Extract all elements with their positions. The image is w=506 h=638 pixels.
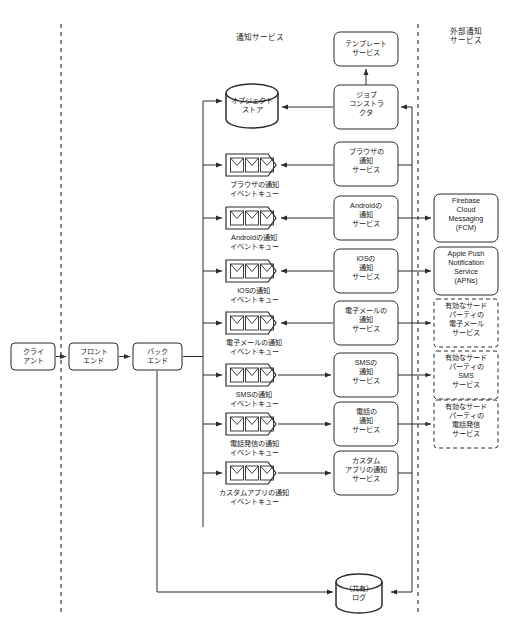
envelope-icon [231, 211, 244, 225]
node-object-store [226, 84, 278, 128]
node-backend [133, 343, 182, 370]
node-client [11, 343, 55, 370]
node-service-sms [334, 353, 398, 397]
envelope-icon [246, 466, 259, 480]
envelope-icon [231, 158, 244, 172]
envelope-icon [246, 264, 259, 278]
envelope-icon [246, 316, 259, 330]
node-shared-log [336, 574, 382, 613]
envelope-icon [231, 316, 244, 330]
node-service-ios [334, 249, 398, 293]
node-service-android [334, 196, 398, 240]
envelope-icon [261, 417, 274, 431]
node-external-email [434, 299, 498, 347]
envelope-icon [261, 466, 274, 480]
node-service-browser [334, 142, 398, 186]
node-external-apns [434, 247, 498, 295]
node-external-fcm [434, 194, 498, 242]
node-template-service [334, 32, 398, 66]
envelope-icon [261, 264, 274, 278]
envelope-icon [246, 158, 259, 172]
envelope-icon [261, 368, 274, 382]
envelope-icon [261, 316, 274, 330]
node-frontend [69, 343, 118, 370]
node-job-constructor [334, 85, 398, 129]
envelope-icon [231, 368, 244, 382]
envelope-icon [231, 264, 244, 278]
envelope-icon [231, 466, 244, 480]
node-external-phone [434, 400, 498, 448]
envelope-icon [261, 211, 274, 225]
node-service-phone [334, 402, 398, 446]
envelope-icon [246, 211, 259, 225]
envelope-icon [231, 417, 244, 431]
envelope-icon [246, 417, 259, 431]
envelope-icon [246, 368, 259, 382]
envelope-icon [261, 158, 274, 172]
node-external-sms [434, 351, 498, 399]
edge-backend-sharedlog [157, 371, 333, 592]
node-service-custom-app [334, 451, 398, 495]
architecture-diagram [0, 0, 506, 638]
node-service-email [334, 301, 398, 345]
